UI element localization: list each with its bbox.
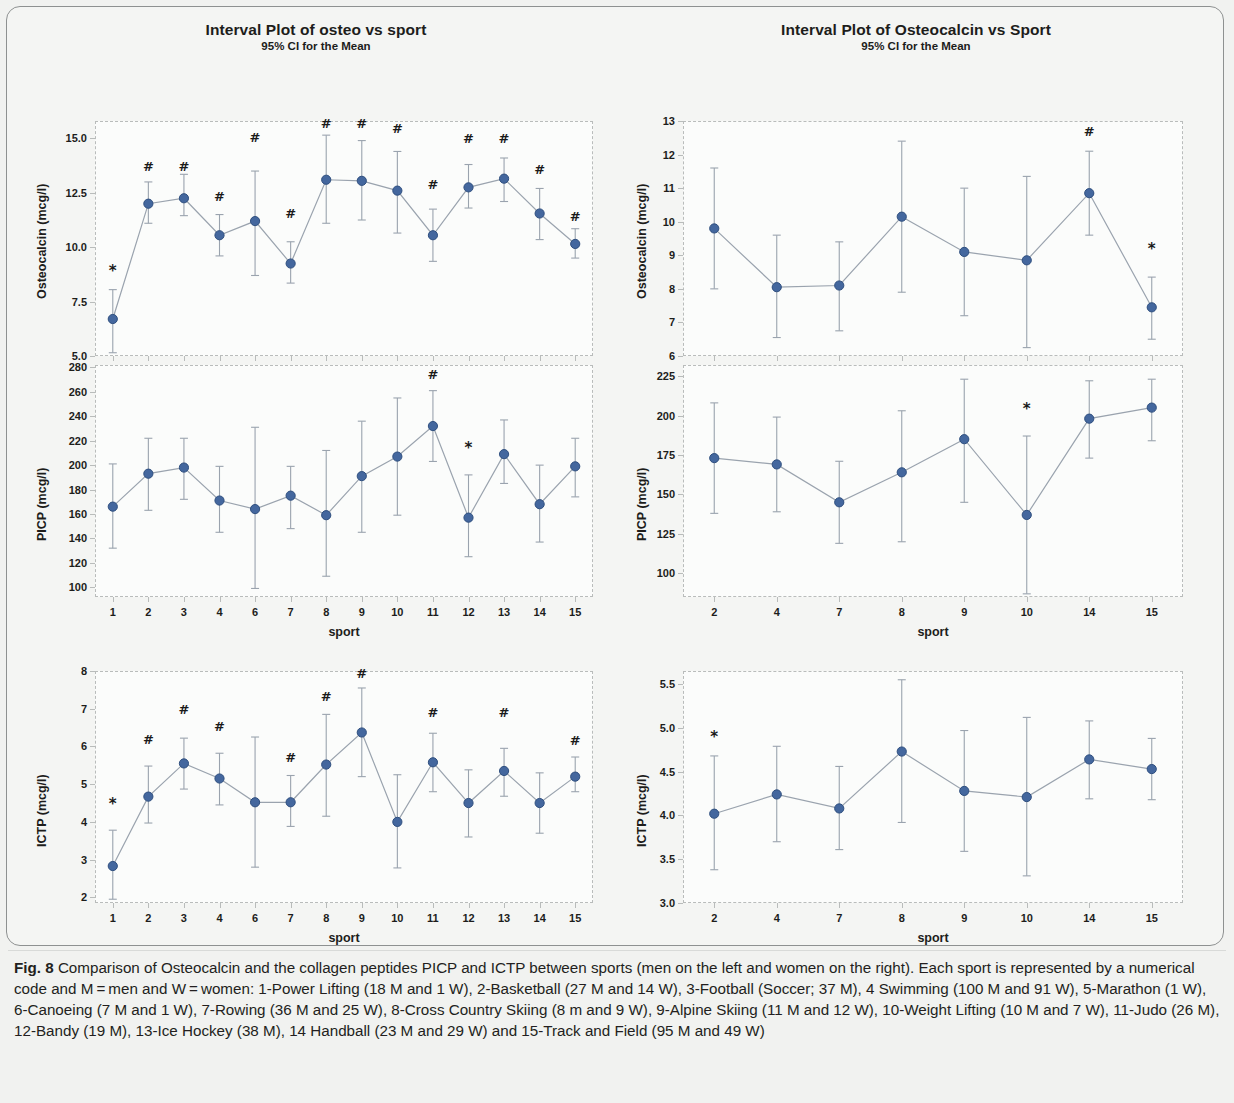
mean-marker — [1085, 755, 1094, 764]
mean-connector-line — [113, 732, 575, 866]
significance-hash: # — [143, 731, 154, 746]
plot-area-osteocalcin-men: Osteocalcin (mcg/l)5.07.510.012.515.0123… — [17, 21, 615, 351]
series-layer-ictp-men — [17, 659, 615, 949]
mean-marker — [571, 772, 580, 781]
plot-area-ictp-men: ICTP (mcg/l)234567812346789101112131415s… — [17, 659, 615, 949]
series-layer-osteocalcin-men — [17, 21, 615, 351]
chart-panel-picp-women: PICP (mcg/l)1001251501752002252478910141… — [617, 357, 1215, 657]
mean-marker — [535, 500, 544, 509]
mean-marker — [1085, 414, 1094, 423]
mean-marker — [322, 175, 331, 184]
significance-asterisk: * — [109, 262, 117, 280]
mean-marker — [322, 511, 331, 520]
mean-marker — [250, 216, 259, 225]
significance-asterisk: * — [109, 795, 117, 813]
mean-marker — [464, 798, 473, 807]
mean-marker — [108, 502, 117, 511]
mean-marker — [1147, 764, 1156, 773]
significance-hash: # — [499, 705, 510, 720]
significance-hash: # — [285, 206, 296, 221]
mean-marker — [960, 786, 969, 795]
significance-hash: # — [570, 208, 581, 223]
mean-marker — [772, 283, 781, 292]
mean-marker — [535, 798, 544, 807]
mean-marker — [250, 504, 259, 513]
mean-marker — [322, 760, 331, 769]
figure-label: Fig. 8 — [14, 959, 54, 976]
mean-marker — [393, 186, 402, 195]
figure-caption-text: Comparison of Osteocalcin and the collag… — [14, 959, 1219, 1039]
significance-hash: # — [321, 689, 332, 704]
mean-marker — [835, 498, 844, 507]
chart-panel-osteocalcin-women: Interval Plot of Osteocalcin vs Sport95%… — [617, 21, 1215, 351]
mean-marker — [215, 774, 224, 783]
significance-hash: # — [427, 705, 438, 720]
mean-marker — [144, 469, 153, 478]
mean-marker — [1022, 510, 1031, 519]
significance-hash: # — [214, 189, 225, 204]
mean-marker — [357, 728, 366, 737]
mean-marker — [428, 758, 437, 767]
mean-marker — [179, 463, 188, 472]
mean-marker — [144, 199, 153, 208]
plot-area-ictp-women: ICTP (mcg/l)3.03.54.04.55.05.52478910141… — [617, 659, 1215, 949]
mean-marker — [464, 513, 473, 522]
figure-frame: Interval Plot of osteo vs sport95% CI fo… — [6, 6, 1224, 946]
significance-hash: # — [1084, 124, 1095, 139]
significance-hash: # — [463, 131, 474, 146]
significance-hash: # — [534, 161, 545, 176]
significance-hash: # — [321, 116, 332, 131]
mean-marker — [499, 450, 508, 459]
significance-hash: # — [285, 750, 296, 765]
mean-marker — [897, 212, 906, 221]
mean-marker — [179, 759, 188, 768]
chart-panel-picp-men: PICP (mcg/l)1001201401601802002202402602… — [17, 357, 615, 657]
mean-marker — [357, 472, 366, 481]
mean-marker — [835, 804, 844, 813]
significance-hash: # — [570, 732, 581, 747]
chart-panel-ictp-men: ICTP (mcg/l)234567812346789101112131415s… — [17, 659, 615, 949]
figure-caption: Fig. 8 Comparison of Osteocalcin and the… — [14, 958, 1222, 1042]
mean-marker — [393, 452, 402, 461]
figure-page: Interval Plot of osteo vs sport95% CI fo… — [0, 0, 1234, 1103]
significance-hash: # — [356, 116, 367, 131]
mean-marker — [1147, 403, 1156, 412]
mean-marker — [286, 491, 295, 500]
significance-hash: # — [214, 718, 225, 733]
mean-marker — [960, 435, 969, 444]
series-layer-ictp-women — [617, 659, 1215, 949]
mean-marker — [535, 209, 544, 218]
mean-marker — [772, 460, 781, 469]
mean-marker — [710, 224, 719, 233]
mean-marker — [772, 790, 781, 799]
plot-area-osteocalcin-women: Osteocalcin (mcg/l)678910111213247891014… — [617, 21, 1215, 351]
mean-marker — [710, 809, 719, 818]
mean-marker — [897, 747, 906, 756]
mean-marker — [108, 861, 117, 870]
caption-divider — [8, 950, 1226, 951]
significance-asterisk: * — [465, 439, 473, 457]
mean-marker — [179, 194, 188, 203]
mean-marker — [357, 176, 366, 185]
significance-hash: # — [356, 665, 367, 680]
mean-marker — [144, 792, 153, 801]
mean-marker — [1147, 303, 1156, 312]
mean-marker — [286, 798, 295, 807]
series-layer-osteocalcin-women — [617, 21, 1215, 351]
significance-hash: # — [427, 366, 438, 381]
mean-marker — [499, 766, 508, 775]
significance-hash: # — [178, 158, 189, 173]
significance-hash: # — [250, 130, 261, 145]
mean-marker — [250, 798, 259, 807]
chart-panel-ictp-women: ICTP (mcg/l)3.03.54.04.55.05.52478910141… — [617, 659, 1215, 949]
significance-asterisk: * — [710, 728, 718, 746]
mean-marker — [571, 462, 580, 471]
mean-marker — [286, 259, 295, 268]
mean-marker — [710, 454, 719, 463]
significance-asterisk: * — [1148, 240, 1156, 258]
significance-hash: # — [427, 177, 438, 192]
significance-hash: # — [143, 158, 154, 173]
mean-marker — [1022, 256, 1031, 265]
mean-marker — [835, 281, 844, 290]
chart-panel-osteocalcin-men: Interval Plot of osteo vs sport95% CI fo… — [17, 21, 615, 351]
